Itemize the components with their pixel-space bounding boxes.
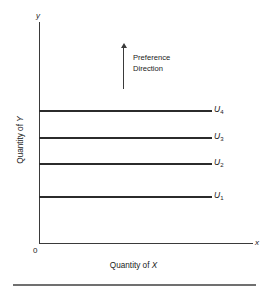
y-axis-title-variable: Y	[16, 116, 25, 121]
x-axis-line	[39, 243, 253, 244]
indifference-curve-figure: y x 0 U4U3U2U1 Preference Direction Quan…	[0, 0, 267, 293]
indifference-curve-line	[39, 137, 212, 139]
preference-direction-line1: Preference	[133, 53, 170, 62]
indifference-curve-label: U2	[214, 158, 223, 167]
x-axis-title-prefix: Quantity of	[110, 261, 152, 270]
indifference-curve-line	[39, 110, 212, 112]
y-axis-title-prefix: Quantity of	[16, 122, 25, 164]
x-axis-cap-label: x	[255, 239, 259, 247]
indifference-curve-label: U3	[214, 132, 223, 141]
x-axis-title-variable: X	[152, 261, 157, 270]
origin-label: 0	[33, 247, 37, 255]
y-axis-line	[39, 22, 40, 244]
curve-label-subscript: 2	[220, 162, 223, 168]
y-axis-cap-label: y	[36, 12, 40, 20]
curve-label-subscript: 1	[220, 195, 223, 201]
y-axis-title: Quantity of Y	[17, 116, 25, 163]
x-axis-title: Quantity of X	[0, 262, 267, 270]
up-arrow-icon	[123, 47, 124, 89]
indifference-curve-label: U1	[214, 191, 223, 200]
indifference-curve-line	[39, 196, 212, 198]
curve-label-subscript: 3	[220, 136, 223, 142]
preference-direction-label: Preference Direction	[133, 52, 170, 74]
preference-direction-line2: Direction	[133, 64, 163, 73]
bottom-divider-rule	[13, 284, 256, 286]
curve-label-subscript: 4	[220, 109, 223, 115]
indifference-curve-line	[39, 163, 212, 165]
indifference-curve-label: U4	[214, 105, 223, 114]
